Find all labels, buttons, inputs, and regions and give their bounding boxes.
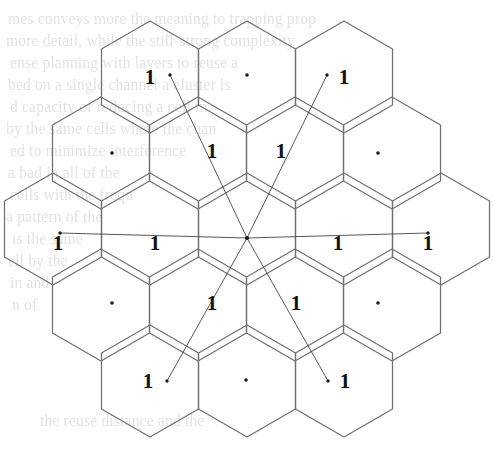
ray-endpoint-dot-5 (165, 379, 168, 382)
hexagon-cell (344, 97, 441, 209)
ray-endpoint-dot-3 (168, 73, 171, 76)
hexagon-cell (53, 97, 150, 209)
dot-row4-left (110, 301, 114, 305)
dot-center (245, 236, 249, 240)
hexagon-cell (199, 21, 296, 133)
dot-bottom-center (244, 378, 248, 382)
hexagonal-cell-diagram: mes conveys more the meaning to trapping… (0, 0, 493, 453)
hexagon-cell (5, 173, 102, 285)
dot-row4-right (376, 301, 380, 305)
hexagon-cell (247, 97, 344, 209)
hexagon-cell (393, 173, 490, 285)
dot-top-center (245, 73, 249, 77)
hexagon-cell (296, 173, 393, 285)
channel-number-label: 1 (150, 233, 161, 254)
channel-number-label: 1 (339, 67, 350, 88)
hexagon-cell (344, 249, 441, 361)
channel-number-label: 1 (53, 233, 64, 254)
hexagon-cell (102, 173, 199, 285)
ray-southeast (247, 238, 328, 381)
channel-number-label: 1 (207, 141, 218, 162)
ray-northeast (247, 75, 327, 238)
dot-row2-left (110, 151, 114, 155)
channel-number-label: 1 (145, 67, 156, 88)
channel-number-label: 1 (276, 141, 287, 162)
ray-endpoint-dot-6 (326, 379, 329, 382)
hexagon-cell (150, 249, 247, 361)
hexagon-cell (199, 173, 296, 285)
channel-number-label: 1 (340, 371, 351, 392)
channel-number-label: 1 (333, 233, 344, 254)
ray-endpoint-dot-group (58, 73, 429, 382)
hexagon-grid-svg (0, 0, 493, 453)
hexagon-cells-group (5, 21, 490, 437)
channel-number-label: 1 (291, 293, 302, 314)
hexagon-cell (150, 97, 247, 209)
channel-number-label: 1 (143, 371, 154, 392)
channel-number-label: 1 (207, 293, 218, 314)
channel-number-label: 1 (423, 233, 434, 254)
dot-row2-right (376, 151, 380, 155)
hexagon-cell (53, 249, 150, 361)
ray-endpoint-dot-4 (325, 73, 328, 76)
